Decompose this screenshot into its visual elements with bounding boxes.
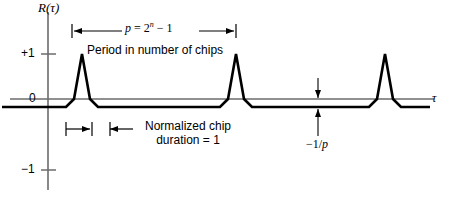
- chip-marker-one-head: [82, 126, 90, 132]
- period-arrow-right-head: [226, 28, 234, 34]
- period-formula-suffix: − 1: [154, 21, 173, 35]
- period-caption-label: Period in number of chips: [87, 44, 223, 58]
- figure-canvas: [0, 0, 454, 197]
- period-arrow-left-head: [74, 28, 82, 34]
- y-tick-label-plus-one: +1: [21, 47, 35, 61]
- x-axis-label: τ: [432, 92, 436, 106]
- y-axis-label: R(τ): [38, 1, 59, 16]
- y-tick-label-minus-one: −1: [21, 163, 35, 177]
- neg-level-arrow-upper-head: [315, 90, 321, 98]
- autocorrelation-figure: R(τ) +1 0 −1 τ p = 2n − 1 Period in numb…: [0, 0, 454, 197]
- period-formula-equals: = 2: [131, 21, 150, 35]
- neg-level-arrow-lower-head: [315, 109, 321, 117]
- negative-level-label: −1/p: [306, 138, 328, 152]
- negative-level-prefix: −1/: [306, 137, 322, 151]
- y-tick-label-zero: 0: [29, 92, 36, 106]
- chip-duration-line-one: Normalized chip: [133, 120, 243, 134]
- chip-marker-two-head: [110, 126, 118, 132]
- chip-duration-line-two: duration = 1: [133, 134, 243, 148]
- negative-level-variable: p: [322, 137, 328, 151]
- chip-duration-label: Normalized chip duration = 1: [133, 120, 243, 148]
- period-formula-label: p = 2n − 1: [125, 20, 173, 36]
